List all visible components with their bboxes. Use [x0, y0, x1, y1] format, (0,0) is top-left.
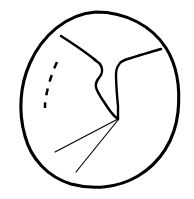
figure-background	[0, 0, 194, 199]
figure-canvas: Line drawing diagram Black ink outline d…	[0, 0, 194, 199]
line-drawing-svg: Line drawing diagram Black ink outline d…	[0, 0, 194, 199]
